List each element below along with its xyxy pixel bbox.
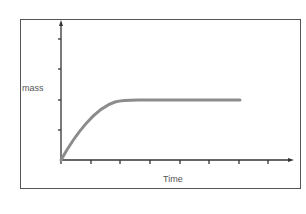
mass-curve	[61, 100, 240, 160]
x-axis-label: Time	[163, 174, 183, 184]
y-axis-label: mass	[22, 83, 44, 93]
x-axis-arrow-icon	[288, 158, 294, 162]
y-axis-arrow-icon	[59, 20, 63, 26]
line-chart	[0, 0, 306, 214]
